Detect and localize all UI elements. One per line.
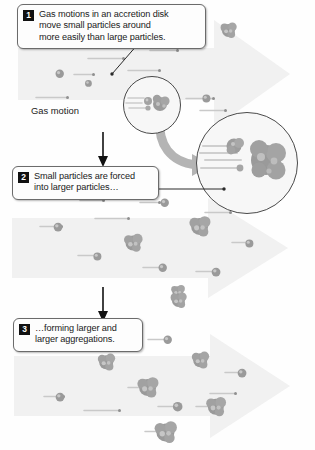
aggregate-particle — [95, 351, 117, 373]
gas-streak — [95, 214, 133, 223]
callout-step-1[interactable]: 1 Gas motions in an accretion disk move … — [17, 4, 206, 49]
small-detail-circle — [123, 76, 181, 134]
small-particle — [200, 92, 213, 105]
small-particle — [53, 67, 66, 80]
gas-streak — [84, 406, 124, 415]
step-badge-3: 3 — [19, 324, 30, 335]
small-particle — [91, 250, 104, 263]
small-particle — [243, 237, 256, 250]
small-particle — [235, 366, 249, 380]
aggregate-particle — [151, 418, 180, 447]
aggregate-particle — [168, 290, 189, 311]
magnified-detail-circle — [196, 112, 298, 214]
callout2-leader-line — [146, 182, 234, 196]
aggregate-particle — [134, 374, 161, 401]
callout1-leader-line — [108, 44, 148, 80]
callout-step-3[interactable]: 3 …forming larger and larger aggregation… — [13, 318, 143, 352]
step-arrow-1-to-2 — [96, 132, 110, 168]
aggregate-particle — [189, 349, 211, 371]
small-particle — [161, 333, 174, 346]
small-particle — [51, 220, 65, 234]
step-badge-2: 2 — [18, 172, 29, 183]
aggregate-particle — [218, 20, 239, 41]
callout-step-2[interactable]: 2 Small particles are forced into larger… — [12, 166, 159, 200]
diagram-canvas: Gas motion 1 Gas motions in an accretion… — [0, 0, 315, 450]
small-particle — [209, 265, 223, 279]
small-particle — [170, 399, 185, 414]
small-particle — [83, 78, 94, 89]
step-text-1: Gas motions in an accretion disk move sm… — [39, 9, 169, 43]
small-particle — [156, 261, 169, 274]
step-text-2: Small particles are forced into larger p… — [34, 171, 135, 194]
gas-motion-label: Gas motion — [31, 105, 79, 116]
aggregate-particle — [186, 213, 213, 240]
gas-streak — [36, 93, 72, 102]
step-badge-1: 1 — [23, 10, 34, 21]
aggregate-particle — [203, 394, 229, 420]
step-text-3: …forming larger and larger aggregations. — [35, 323, 117, 346]
small-particle — [158, 196, 171, 209]
aggregate-particle — [121, 231, 145, 255]
small-particle — [53, 390, 67, 404]
